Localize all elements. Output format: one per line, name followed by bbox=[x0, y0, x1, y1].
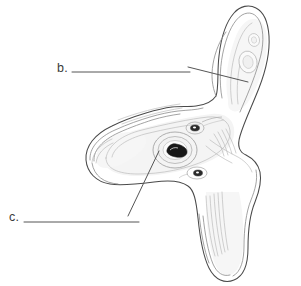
anatomical-figure: b. c. bbox=[0, 0, 301, 286]
label-c: c. bbox=[9, 211, 19, 224]
spinal-cord-structure bbox=[153, 132, 197, 168]
label-b: b. bbox=[57, 62, 68, 75]
anatomy-line-drawing bbox=[0, 0, 301, 286]
